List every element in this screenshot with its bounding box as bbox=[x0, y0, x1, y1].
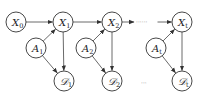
node-a1: A1 bbox=[26, 38, 46, 58]
ellipsis-bottom: ··· bbox=[141, 79, 147, 86]
ellipsis-top: ······ bbox=[136, 18, 148, 25]
edge-at-to-xt bbox=[163, 29, 175, 41]
node-x0: X0 bbox=[6, 12, 26, 32]
edge-a2-to-d2 bbox=[92, 56, 105, 73]
node-x1: X1 bbox=[53, 12, 73, 32]
node-x2: X2 bbox=[102, 12, 122, 32]
node-at: At bbox=[146, 38, 166, 58]
node-d2: 𝒟2 bbox=[102, 71, 122, 91]
edge-x1-to-d1 bbox=[63, 32, 64, 71]
node-d1: 𝒟1 bbox=[54, 71, 74, 91]
node-dt: 𝒟t bbox=[172, 71, 192, 91]
edge-at-to-dt bbox=[162, 56, 175, 73]
node-a2: A2 bbox=[76, 38, 96, 58]
node-xt: Xt bbox=[172, 12, 192, 32]
edge-a1-to-d1 bbox=[42, 56, 57, 73]
nodes-group: X0X1X2XtA1A2At𝒟1𝒟2𝒟t bbox=[6, 12, 192, 91]
dbn-diagram: X0X1X2XtA1A2At𝒟1𝒟2𝒟t ······ ··· bbox=[0, 0, 201, 101]
edge-a1-to-x1 bbox=[43, 29, 55, 41]
edge-a2-to-x2 bbox=[93, 29, 105, 41]
